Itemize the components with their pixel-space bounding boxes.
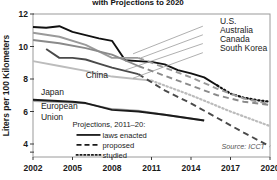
y-tick-label: 8 [23, 74, 28, 84]
fuel-economy-line-chart: with Projections to 20201210864Liters pe… [0, 0, 277, 180]
legend-label-dashed: proposed [103, 141, 135, 150]
legend-label-solid: laws enacted [103, 131, 147, 140]
leader-line [133, 26, 203, 54]
x-tick-label: 2008 [103, 163, 122, 173]
x-tick-label: 2002 [24, 163, 43, 173]
series-line-projection [138, 74, 270, 146]
x-tick-label: 2020 [261, 163, 277, 173]
x-tick-label: 2005 [63, 163, 82, 173]
y-tick-label: 12 [19, 9, 29, 19]
y-axis-label: Liters per 100 Kilometers [1, 34, 11, 136]
series-label-japan: Japan [41, 87, 64, 97]
x-tick-label: 2014 [182, 163, 201, 173]
series-line-historical [33, 33, 138, 58]
chart-title: with Projections to 2020 [91, 0, 184, 7]
y-tick-label: 6 [23, 107, 28, 117]
x-tick-label: 2011 [142, 163, 161, 173]
x-tick-label: 2017 [221, 163, 240, 173]
y-tick-label: 4 [23, 139, 28, 149]
y-tick-label: 10 [19, 42, 29, 52]
series-label-south-korea: South Korea [220, 43, 268, 53]
legend-label-dotted: studied [103, 151, 128, 160]
series-label-china: China [86, 70, 108, 80]
legend-title: Projections, 2011–20: [73, 120, 146, 129]
series-label-european-union-line2: Union [41, 112, 63, 122]
chart-container: with Projections to 20201210864Liters pe… [0, 0, 277, 180]
series-line-projection [138, 58, 270, 104]
series-label-european-union: European [41, 101, 78, 111]
source-note: Source: ICCT [221, 142, 265, 151]
